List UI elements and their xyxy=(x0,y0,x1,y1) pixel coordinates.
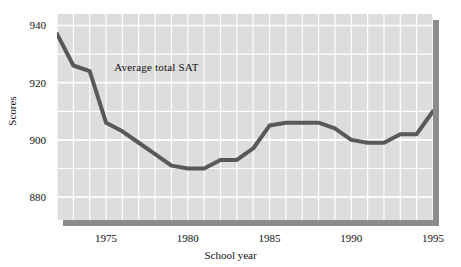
x-tick-label-1990: 1990 xyxy=(340,232,362,244)
plot-area: Average total SAT xyxy=(57,14,433,220)
y-tick-label-940: 940 xyxy=(2,19,46,31)
x-tick-label-1980: 1980 xyxy=(177,232,199,244)
x-tick-label-1995: 1995 xyxy=(422,232,444,244)
y-tick-label-920: 920 xyxy=(2,77,46,89)
y-tick-label-880: 880 xyxy=(2,191,46,203)
series-annotation-label: Average total SAT xyxy=(114,61,198,73)
sat-scores-line-chart: Average total SAT Scores 880900920940 19… xyxy=(0,0,461,267)
y-axis-title: Scores xyxy=(6,81,18,141)
series-average-total-sat xyxy=(57,14,433,220)
y-tick-label-900: 900 xyxy=(2,134,46,146)
x-axis-title: School year xyxy=(0,249,461,261)
x-tick-label-1985: 1985 xyxy=(259,232,281,244)
y-axis: Scores 880900920940 xyxy=(0,0,52,267)
x-tick-label-1975: 1975 xyxy=(95,232,117,244)
